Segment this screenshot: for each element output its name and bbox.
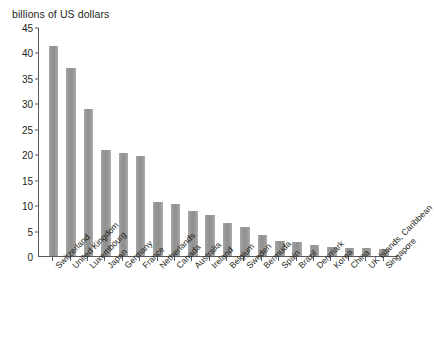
- bar-slot: [341, 28, 358, 256]
- bar: [66, 68, 76, 256]
- plot-area: 454035302520151050: [38, 28, 398, 257]
- x-axis-label-group: SwitzerlandUnited KingdomLuxembourgJapan…: [38, 262, 416, 347]
- bar-slot: [149, 28, 166, 256]
- bar-slot: [306, 28, 323, 256]
- bar-slot: [167, 28, 184, 256]
- bar-slot: [254, 28, 271, 256]
- x-axis-label-slot: UK Islands, Caribbean: [357, 262, 374, 347]
- x-axis-label-slot: Luxembourg: [79, 262, 96, 347]
- bar-slot: [375, 28, 392, 256]
- bar-slot: [80, 28, 97, 256]
- bar-slot: [323, 28, 340, 256]
- x-axis-label-slot: Switzerland: [44, 262, 61, 347]
- x-axis-label-slot: Singapore: [374, 262, 391, 347]
- bar-slot: [202, 28, 219, 256]
- bar-group: [39, 28, 398, 256]
- x-axis-label-slot: United Kingdom: [61, 262, 78, 347]
- x-axis-label-slot: Bermuda: [253, 262, 270, 347]
- y-axis-title: billions of US dollars: [12, 8, 109, 20]
- x-axis-label-slot: China: [340, 262, 357, 347]
- bar-slot: [184, 28, 201, 256]
- x-axis-label-slot: France: [131, 262, 148, 347]
- x-axis-label-slot: Ireland: [201, 262, 218, 347]
- x-axis-label-slot: Sweden: [235, 262, 252, 347]
- x-axis-label-slot: Brazil: [287, 262, 304, 347]
- x-axis-label-slot: Germany: [114, 262, 131, 347]
- x-axis-label-slot: Spain: [270, 262, 287, 347]
- bar-slot: [288, 28, 305, 256]
- bar-slot: [132, 28, 149, 256]
- bar-slot: [219, 28, 236, 256]
- bar-slot: [115, 28, 132, 256]
- bar-slot: [236, 28, 253, 256]
- bar-slot: [62, 28, 79, 256]
- x-axis-label-slot: Netherlands: [148, 262, 165, 347]
- x-axis-label-slot: Belgium: [218, 262, 235, 347]
- x-axis-tick-mark: [52, 257, 53, 261]
- x-axis-label-slot: Australia: [183, 262, 200, 347]
- bar-slot: [271, 28, 288, 256]
- bar-slot: [358, 28, 375, 256]
- x-axis-label-slot: Korea: [322, 262, 339, 347]
- x-axis-label-slot: Japan: [96, 262, 113, 347]
- x-axis-label-slot: Denmark: [305, 262, 322, 347]
- bar-slot: [45, 28, 62, 256]
- bar: [49, 46, 59, 256]
- x-axis-label-slot: Canada: [166, 262, 183, 347]
